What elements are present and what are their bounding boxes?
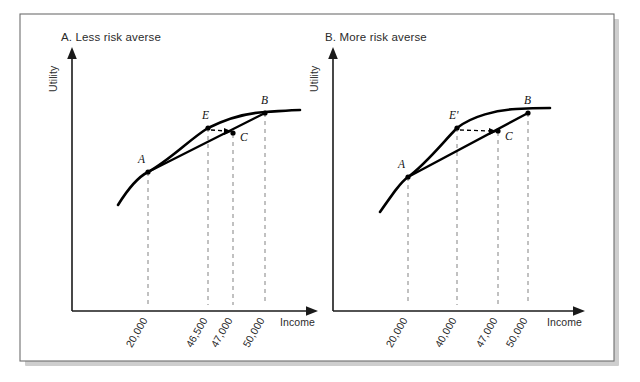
panel-b-point-b-label: B — [524, 94, 531, 106]
panel-b-point-a-marker — [405, 174, 410, 179]
panel-b-y-axis-label: Utility — [308, 65, 320, 92]
panel-a-point-a-marker — [145, 169, 150, 174]
panel-b-title: B. More risk averse — [325, 31, 427, 43]
panel-a-x-axis-label: Income — [280, 316, 315, 328]
panel-a-point-b-marker — [262, 110, 267, 115]
panel-a-point-e-label: E — [201, 109, 209, 121]
panel-b-point-b-marker — [525, 110, 530, 115]
panel-a-point-a-label: A — [137, 153, 146, 165]
panel-a-point-b-label: B — [261, 94, 268, 106]
panel-b-point-a-label: A — [397, 158, 406, 170]
panel-a-y-axis-label: Utility — [47, 65, 59, 92]
panel-b-point-e-prime-label: E' — [448, 109, 459, 121]
panel-a-point-c-marker — [230, 130, 235, 135]
figure-canvas: A. Less risk averse Utility Income A E C… — [0, 0, 640, 382]
panel-a-point-c-label: C — [240, 131, 248, 143]
risk-aversion-figure: A. Less risk averse Utility Income A E C… — [0, 0, 640, 382]
panel-b-point-c-label: C — [505, 130, 513, 142]
panel-a-point-e-marker — [205, 125, 210, 130]
panel-b-point-c-marker — [495, 128, 500, 133]
panel-b-x-axis-label: Income — [547, 316, 582, 328]
panel-a-title: A. Less risk averse — [61, 31, 161, 43]
panel-b-point-e-prime-marker — [454, 125, 459, 130]
